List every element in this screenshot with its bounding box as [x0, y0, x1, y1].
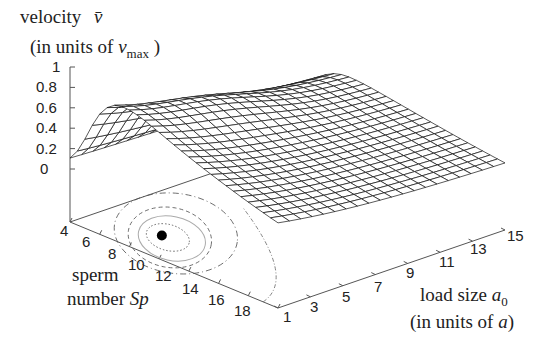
sp-tick: 6	[82, 233, 90, 250]
a0-tick: 15	[507, 227, 524, 244]
sp-axis-title: sperm	[72, 264, 118, 286]
z-tick: 0.2	[36, 140, 57, 157]
a0-units-var: a	[498, 311, 508, 332]
z-units-var: v	[118, 36, 126, 57]
sp-tick: 16	[208, 291, 225, 308]
z-tick: 0.4	[36, 119, 57, 136]
sp-tick: 14	[182, 280, 199, 297]
a0-tick: 3	[310, 298, 318, 315]
z-title-symbol: v̄	[94, 6, 102, 27]
a0-tick: 5	[342, 288, 350, 305]
sp-title-var: Sp	[130, 288, 149, 309]
a0-title-prefix: load size	[420, 284, 492, 305]
z-axis-units: (in units of vmax )	[30, 36, 160, 62]
z-units-sub: max	[127, 46, 149, 61]
z-title-text: velocity	[20, 6, 81, 27]
z-units-suffix: )	[149, 36, 160, 57]
a0-tick: 13	[470, 240, 487, 257]
a0-tick: 9	[406, 264, 414, 281]
z-units-prefix: (in units of	[30, 36, 118, 57]
sp-tick: 4	[60, 222, 68, 239]
velocity-surface-mesh	[70, 74, 505, 223]
a0-title-sub: 0	[501, 294, 508, 309]
sp-title-prefix: number	[67, 288, 130, 309]
sp-tick: 8	[108, 245, 116, 262]
a0-axis-units: (in units of a)	[410, 311, 514, 333]
z-axis-title: velocity v̄	[20, 6, 102, 28]
sp-tick: 10	[128, 256, 145, 273]
a0-units-suffix: )	[508, 311, 514, 332]
z-tick: 0.8	[36, 78, 57, 95]
a0-tick: 1	[283, 308, 291, 325]
sp-tick: 12	[155, 267, 172, 284]
z-tick: 0	[40, 160, 48, 177]
z-tick: 1	[52, 58, 60, 75]
a0-tick: 7	[374, 278, 382, 295]
a0-units-prefix: (in units of	[410, 311, 498, 332]
sp-tick: 18	[234, 302, 251, 319]
z-tick: 0.6	[36, 99, 57, 116]
sp-axis-title-line2: number Sp	[67, 288, 149, 310]
a0-axis-title: load size a0	[420, 284, 508, 310]
maximum-marker	[157, 230, 167, 240]
a0-tick: 11	[439, 253, 455, 270]
a0-title-var: a	[492, 284, 502, 305]
